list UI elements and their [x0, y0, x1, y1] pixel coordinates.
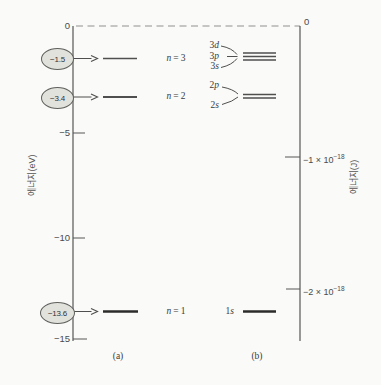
level-label-n2: n= 2: [156, 90, 196, 103]
left-axis-tick-15: −15: [30, 333, 70, 345]
panel-a-caption: (a): [103, 351, 133, 361]
sublevel-braces: [221, 46, 238, 105]
exponent: −18: [334, 285, 345, 292]
left-axis-tick-10: −10: [30, 232, 70, 244]
energy-level-diagram: 0 −5 −10 −15 0 −1 × 10−18 −2 × 10−18 에너지…: [0, 0, 381, 385]
level-label-n3: n= 3: [156, 52, 196, 65]
left-axis-tick-0: 0: [30, 20, 70, 32]
right-axis-tick-1e-18: −1 × 10−18: [303, 150, 345, 167]
left-axis-tick-5: −5: [30, 127, 70, 139]
orbital-label-3d: 3d: [194, 40, 219, 51]
orbital-label-2p: 2p: [194, 80, 219, 91]
orbital-label-1s: 1s: [209, 306, 234, 317]
sublevel-lines-panel-b: [243, 53, 276, 312]
callout-arrows: [73, 56, 98, 315]
right-axis-tick-0: 0: [304, 15, 309, 28]
energy-callout-n1: −13.6: [40, 302, 75, 324]
orbital-label-2s: 2s: [194, 100, 219, 111]
left-axis-line: [73, 26, 87, 341]
left-axis-title: 에너지(eV): [25, 154, 38, 195]
exponent: −18: [334, 153, 345, 160]
energy-callout-n3: −1.5: [41, 48, 74, 70]
level-label-n1: n= 1: [156, 305, 196, 318]
level-lines-panel-a: [103, 59, 138, 312]
right-axis-title: 에너지(J): [347, 160, 360, 195]
energy-callout-n2: −3.4: [41, 87, 74, 109]
orbital-label-3s: 3s: [194, 61, 219, 72]
panel-b-caption: (b): [242, 351, 272, 361]
right-axis-line: [285, 26, 300, 341]
right-axis-tick-2e-18: −2 × 10−18: [303, 282, 345, 299]
